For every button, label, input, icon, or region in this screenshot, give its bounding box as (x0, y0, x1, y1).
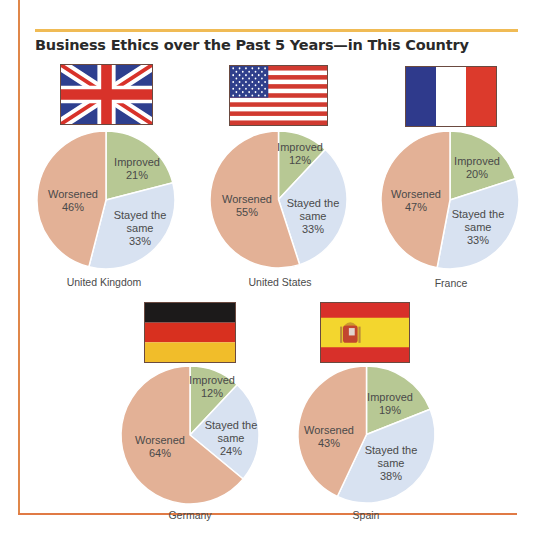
improved-label: Improved 21% (114, 156, 160, 182)
left-border-rule (18, 0, 20, 514)
us-flag-icon (229, 65, 328, 126)
stayed-label: Stayed the same 38% (365, 444, 418, 483)
uk-flag-icon (60, 64, 153, 125)
improved-label: Improved 12% (277, 141, 323, 167)
worsened-label: Worsened 46% (48, 188, 98, 214)
top-title-rule (35, 29, 518, 32)
country-label-spain: Spain (353, 509, 380, 521)
improved-label: Improved 20% (454, 155, 500, 181)
stayed-label: Stayed the same 33% (114, 209, 167, 248)
bottom-border-rule (18, 513, 517, 515)
stayed-label: Stayed the same 24% (205, 419, 258, 458)
stayed-label: Stayed the same 33% (287, 197, 340, 236)
improved-label: Improved 19% (367, 391, 413, 417)
country-label-united-states: United States (248, 276, 311, 288)
worsened-label: Worsened 43% (304, 424, 354, 450)
improved-label: Improved 12% (189, 374, 235, 400)
france-flag-icon (405, 66, 497, 127)
spain-flag-icon (320, 302, 410, 363)
country-label-germany: Germany (168, 509, 211, 521)
stayed-label: Stayed the same 33% (452, 208, 505, 247)
germany-flag-icon (144, 302, 236, 363)
worsened-label: Worsened 64% (135, 434, 185, 460)
country-label-united-kingdom: United Kingdom (67, 276, 142, 288)
figure-title: Business Ethics over the Past 5 Years—in… (35, 37, 469, 53)
country-label-france: France (435, 277, 468, 289)
worsened-label: Worsened 55% (222, 193, 272, 219)
worsened-label: Worsened 47% (391, 188, 441, 214)
